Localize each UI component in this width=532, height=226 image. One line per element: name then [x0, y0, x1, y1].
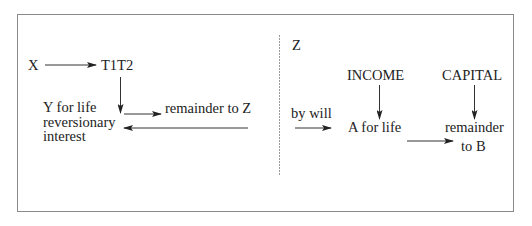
trustees-label: T1T2	[101, 58, 133, 73]
life-tenant-line-3: interest	[43, 129, 86, 144]
remainder-to-z-label: remainder to Z	[165, 101, 251, 116]
to-b-label: to B	[461, 139, 486, 154]
life-tenant-line-1: Y for life	[43, 100, 96, 115]
income-label: INCOME	[347, 68, 404, 83]
capital-label: CAPITAL	[442, 68, 502, 83]
z-heading: Z	[292, 38, 301, 53]
settlor-label: X	[28, 58, 38, 73]
a-for-life-label: A for life	[348, 120, 401, 135]
by-will-label: by will	[291, 106, 332, 121]
remainder-label: remainder	[445, 120, 504, 135]
